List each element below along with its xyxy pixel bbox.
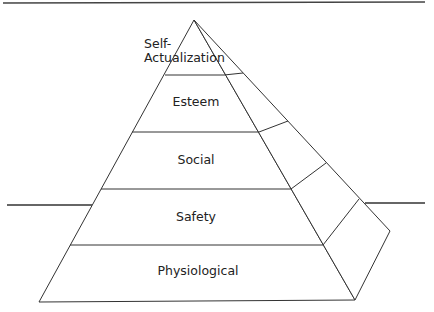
- level-safety-label: Safety: [176, 210, 216, 224]
- level-physiological-label: Physiological: [157, 264, 238, 278]
- level-self-actualization-label: Self- Actualization: [144, 37, 225, 65]
- maslow-pyramid-diagram: Self- Actualization Esteem Social Safety…: [0, 0, 434, 312]
- label-line-2: Actualization: [144, 51, 225, 65]
- top-rule: [3, 2, 425, 3]
- level-esteem-label: Esteem: [173, 95, 220, 109]
- label-line-1: Self-: [144, 37, 225, 51]
- level-social-label: Social: [177, 153, 214, 167]
